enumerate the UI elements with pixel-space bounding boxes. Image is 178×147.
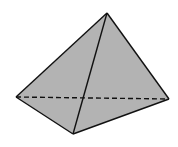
- tetrahedron-diagram: [0, 0, 178, 147]
